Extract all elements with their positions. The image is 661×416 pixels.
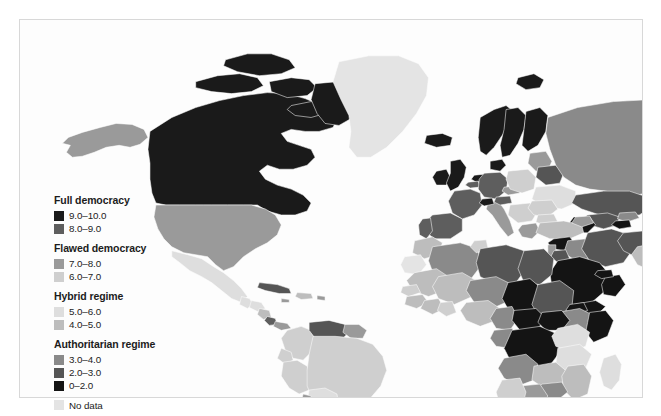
legend-item[interactable]: 2.0–3.0 <box>54 367 204 380</box>
legend-swatch <box>54 307 64 317</box>
map-legend: Full democracy 9.0–10.0 8.0–9.0 Flawed d… <box>54 194 204 412</box>
legend-group-authoritarian-regime: Authoritarian regime 3.0–4.0 2.0–3.0 0–2… <box>54 338 204 392</box>
country-austria[interactable] <box>494 196 512 205</box>
legend-swatch <box>54 381 64 391</box>
legend-group-full-democracy: Full democracy 9.0–10.0 8.0–9.0 <box>54 194 204 235</box>
legend-item[interactable]: 7.0–8.0 <box>54 258 204 271</box>
legend-item[interactable]: 0–2.0 <box>54 380 204 393</box>
legend-item[interactable]: 5.0–6.0 <box>54 306 204 319</box>
legend-swatch <box>54 211 64 221</box>
legend-label: 6.0–7.0 <box>69 271 101 282</box>
legend-label: 0–2.0 <box>69 380 93 391</box>
legend-item[interactable]: 4.0–5.0 <box>54 319 204 332</box>
legend-item[interactable]: 9.0–10.0 <box>54 210 204 223</box>
legend-label: 5.0–6.0 <box>69 306 101 317</box>
legend-swatch <box>54 355 64 365</box>
legend-swatch <box>54 224 64 234</box>
legend-group-hybrid-regime: Hybrid regime 5.0–6.0 4.0–5.0 <box>54 290 204 331</box>
legend-group-no-data: No data <box>54 399 204 412</box>
legend-item[interactable]: No data <box>54 399 204 412</box>
legend-swatch <box>54 400 64 410</box>
country-puerto-rico[interactable] <box>317 296 325 301</box>
legend-label: No data <box>69 400 103 411</box>
legend-group-flawed-democracy: Flawed democracy 7.0–8.0 6.0–7.0 <box>54 242 204 283</box>
legend-item[interactable]: 8.0–9.0 <box>54 223 204 236</box>
legend-label: 3.0–4.0 <box>69 354 101 365</box>
legend-swatch <box>54 272 64 282</box>
legend-swatch <box>54 259 64 269</box>
legend-item[interactable]: 6.0–7.0 <box>54 271 204 284</box>
legend-label: 7.0–8.0 <box>69 258 101 269</box>
legend-item[interactable]: 3.0–4.0 <box>54 354 204 367</box>
legend-label: 9.0–10.0 <box>69 210 106 221</box>
legend-label: 4.0–5.0 <box>69 319 101 330</box>
legend-group-title: Full democracy <box>54 194 204 207</box>
figure-root: Full democracy 9.0–10.0 8.0–9.0 Flawed d… <box>0 0 661 416</box>
legend-label: 2.0–3.0 <box>69 367 101 378</box>
legend-swatch <box>54 320 64 330</box>
country-jamaica[interactable] <box>281 299 289 303</box>
country-poland[interactable] <box>506 169 536 193</box>
legend-group-title: Hybrid regime <box>54 290 204 303</box>
map-plate: Full democracy 9.0–10.0 8.0–9.0 Flawed d… <box>19 19 643 398</box>
legend-group-title: Flawed democracy <box>54 242 204 255</box>
legend-label: 8.0–9.0 <box>69 223 101 234</box>
legend-group-title: Authoritarian regime <box>54 338 204 351</box>
legend-swatch <box>54 368 64 378</box>
